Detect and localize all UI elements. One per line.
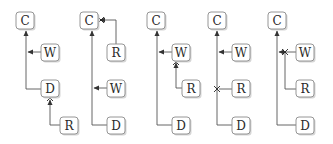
node-w: W (232, 44, 252, 63)
node-label: C (20, 14, 29, 28)
node-d: D (296, 117, 316, 136)
node-d: D (172, 117, 192, 136)
edge-r-to-w (285, 52, 296, 89)
node-label: D (300, 119, 310, 133)
node-label: R (236, 82, 246, 96)
node-label: D (45, 82, 55, 96)
node-r: R (107, 44, 127, 63)
node-w: W (107, 80, 127, 99)
edge-r-to-d (50, 100, 60, 125)
node-label: W (235, 46, 248, 60)
panel-5-edges (277, 31, 296, 125)
edge-r-to-w (176, 63, 182, 88)
node-label: C (212, 14, 221, 28)
node-label: D (236, 119, 246, 133)
node-r: R (232, 80, 252, 99)
panel-2-edges (92, 17, 116, 125)
node-d: D (232, 117, 252, 136)
node-r: R (60, 117, 80, 136)
node-c: C (80, 12, 100, 31)
node-label: D (176, 119, 186, 133)
node-label: W (44, 46, 57, 60)
edge-d-to-c (157, 31, 172, 125)
node-d: D (41, 80, 61, 99)
node-w: W (172, 44, 192, 63)
nodes: CWDRCRWDCWRDCWRDCWRD (16, 12, 316, 136)
node-label: W (299, 46, 312, 60)
node-label: R (186, 82, 196, 96)
node-w: W (41, 44, 61, 63)
node-label: C (272, 14, 281, 28)
node-label: C (151, 14, 160, 28)
node-label: R (300, 82, 310, 96)
node-c: C (147, 12, 167, 31)
node-label: C (84, 14, 93, 28)
node-c: C (16, 12, 36, 31)
node-c: C (268, 12, 288, 31)
node-label: D (111, 119, 121, 133)
node-label: W (175, 46, 188, 60)
edge-r-to-c (100, 20, 116, 44)
node-label: R (111, 46, 121, 60)
edge-d-to-c (277, 31, 296, 125)
node-r: R (182, 80, 202, 99)
diagram-canvas: CWDRCRWDCWRDCWRDCWRD (0, 0, 333, 144)
node-d: D (107, 117, 127, 136)
node-r: R (296, 80, 316, 99)
node-c: C (208, 12, 228, 31)
panel-4-edges (214, 31, 232, 125)
node-label: R (64, 119, 74, 133)
node-w: W (296, 44, 316, 63)
edge-d-to-c (217, 31, 232, 125)
node-label: W (110, 82, 123, 96)
edge-d-to-c (92, 31, 107, 125)
